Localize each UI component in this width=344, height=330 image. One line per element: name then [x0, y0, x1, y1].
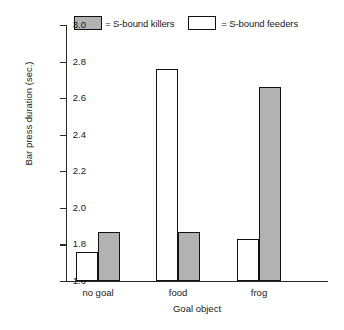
x-tick-label-no-goal: no goal — [82, 287, 113, 298]
bar-chart-figure: = S-bound killers = S-bound feeders 3.02… — [0, 0, 344, 330]
y-tick-label: 2.4 — [58, 128, 86, 139]
y-tick-label: 1.8 — [58, 238, 86, 249]
bar-frog-s-bound-feeders — [237, 239, 259, 281]
x-axis-title: Goal object — [66, 303, 328, 314]
bar-no-goal-s-bound-feeders — [76, 252, 98, 281]
y-tick-label: 2.2 — [58, 165, 86, 176]
y-tick-label: 2.8 — [58, 55, 86, 66]
x-axis-line — [66, 281, 328, 282]
y-tick-label: 3.0 — [58, 19, 86, 30]
bar-food-s-bound-killers — [178, 232, 200, 281]
y-tick-label: 2.0 — [58, 201, 86, 212]
x-tick-label-food: food — [169, 287, 188, 298]
y-tick-label: 2.6 — [58, 92, 86, 103]
x-tick-label-frog: frog — [251, 287, 267, 298]
plot-area: 3.02.82.62.42.22.01.81.6 no goalfoodfrog — [66, 25, 328, 281]
bar-frog-s-bound-killers — [259, 87, 281, 281]
bar-food-s-bound-feeders — [156, 69, 178, 281]
y-axis-title: Bar press duration (sec.) — [23, 29, 34, 199]
bar-no-goal-s-bound-killers — [98, 232, 120, 281]
